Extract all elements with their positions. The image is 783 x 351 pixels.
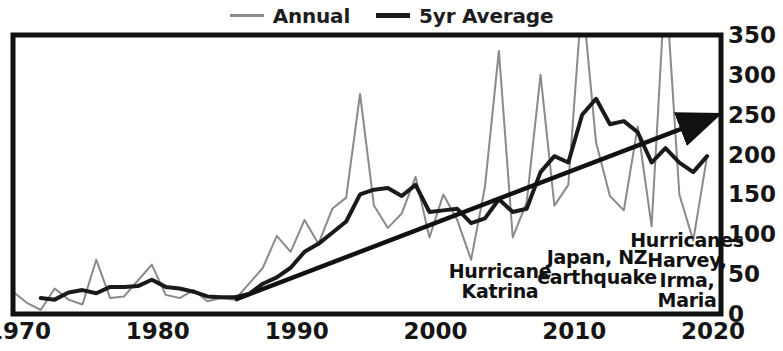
y-axis-tick-label: 250: [728, 102, 776, 128]
x-axis-tick-label: 2000: [403, 318, 467, 344]
y-axis-tick-label: 150: [728, 181, 776, 207]
y-axis-tick-label: 300: [728, 62, 776, 88]
chart-annotation-label: Hurricanes Harvey, Irma, Maria: [630, 231, 744, 311]
x-axis-tick-label: 1970: [0, 318, 51, 344]
y-axis-tick-label: 200: [728, 142, 776, 168]
x-axis-tick-label: 2020: [681, 318, 745, 344]
x-axis-tick-label: 2010: [542, 318, 606, 344]
y-axis-tick-label: 350: [728, 22, 776, 48]
chart-annotation-label: Hurricane Katrina: [449, 262, 551, 302]
x-axis-tick-label: 1980: [126, 318, 190, 344]
chart-root: Annual 5yr Average 050100150200250300350…: [0, 0, 783, 351]
x-axis-tick-label: 1990: [265, 318, 329, 344]
